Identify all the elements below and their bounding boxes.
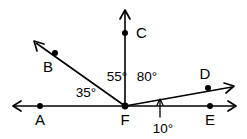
point-label-C: C <box>136 24 147 41</box>
angle-label-CFD: 80° <box>137 69 157 84</box>
point-label-E: E <box>205 111 215 128</box>
angle-dfe-pointer-icon <box>157 99 163 117</box>
geometry-diagram-canvas: A B C D E F 35° 55° 80° 10° <box>0 0 247 139</box>
geometry-figure: A B C D E F 35° 55° 80° 10° <box>0 0 247 139</box>
point-dot-F <box>122 103 129 110</box>
point-label-B: B <box>43 58 53 75</box>
point-dot-E <box>207 103 213 109</box>
point-dot-D <box>205 85 211 91</box>
point-label-F: F <box>120 111 129 128</box>
angle-label-DFE: 10° <box>153 121 173 136</box>
point-dot-A <box>37 103 43 109</box>
point-label-A: A <box>35 111 45 128</box>
point-dot-B <box>52 50 58 56</box>
point-dot-C <box>122 30 128 36</box>
point-label-D: D <box>200 65 211 82</box>
angle-label-BFC: 55° <box>107 69 127 84</box>
ray-FD <box>125 87 232 106</box>
angle-label-AFB: 35° <box>76 85 96 100</box>
